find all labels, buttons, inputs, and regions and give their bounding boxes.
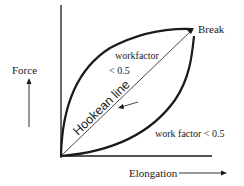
upper-workfactor-label-1: workfactor (115, 50, 160, 61)
pointer-arrow (121, 102, 138, 107)
force-elongation-diagram: Force Elongation Break workfactor < 0.5 … (0, 0, 244, 186)
pointer-arrowhead-icon (118, 104, 124, 109)
lower-workfactor-label: work factor < 0.5 (155, 128, 225, 139)
break-label: Break (198, 23, 225, 35)
elongation-label: Elongation (129, 167, 178, 179)
force-label: Force (12, 64, 37, 76)
force-arrowhead-icon (27, 78, 32, 84)
upper-workfactor-label-2: < 0.5 (109, 65, 130, 76)
elongation-arrowhead-icon (221, 171, 227, 176)
